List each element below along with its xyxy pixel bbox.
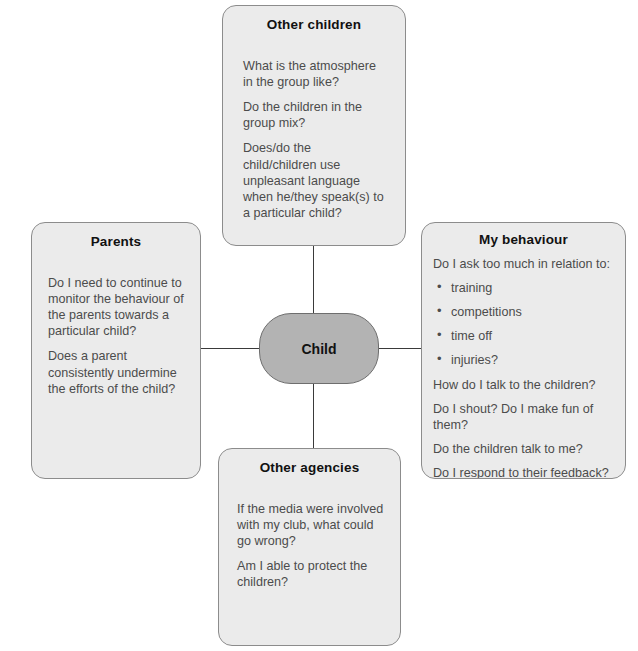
- node-my-behaviour-line-3: Do the children talk to me?: [433, 441, 615, 457]
- node-other-agencies-title: Other agencies: [219, 460, 400, 475]
- node-my-behaviour-line-1: How do I talk to the children?: [433, 377, 615, 393]
- node-parents-line-1: Do I need to continue to monitor the beh…: [48, 275, 186, 339]
- connector-bottom: [313, 384, 314, 448]
- node-my-behaviour-bullet-list: training competitions time off injuries?: [433, 280, 615, 368]
- node-other-children-body: What is the atmosphere in the group like…: [243, 58, 387, 221]
- node-other-children-line-1: What is the atmosphere in the group like…: [243, 58, 387, 90]
- mind-map-diagram: Other children What is the atmosphere in…: [0, 0, 638, 651]
- node-parents-title: Parents: [32, 234, 200, 249]
- node-other-children-title: Other children: [223, 17, 405, 32]
- node-my-behaviour-line-2: Do I shout? Do I make fun of them?: [433, 401, 615, 433]
- node-my-behaviour-line-4: Do I respond to their feedback?: [433, 465, 615, 479]
- node-parents[interactable]: Parents Do I need to continue to monitor…: [31, 222, 201, 479]
- list-item: time off: [433, 328, 615, 344]
- node-child-label: Child: [302, 341, 337, 357]
- list-item: injuries?: [433, 352, 615, 368]
- node-other-agencies[interactable]: Other agencies If the media were involve…: [218, 448, 401, 646]
- node-my-behaviour[interactable]: My behaviour Do I ask too much in relati…: [421, 222, 626, 479]
- node-other-children[interactable]: Other children What is the atmosphere in…: [222, 5, 406, 246]
- connector-left: [201, 348, 259, 349]
- list-item: competitions: [433, 304, 615, 320]
- node-my-behaviour-body: Do I ask too much in relation to: traini…: [433, 256, 615, 479]
- node-my-behaviour-title: My behaviour: [422, 232, 625, 247]
- node-child-center[interactable]: Child: [259, 313, 379, 384]
- node-parents-line-2: Does a parent consistently undermine the…: [48, 348, 186, 396]
- node-other-children-line-3: Does/do the child/children use unpleasan…: [243, 140, 387, 221]
- connector-top: [313, 246, 314, 313]
- list-item: training: [433, 280, 615, 296]
- node-other-children-line-2: Do the children in the group mix?: [243, 99, 387, 131]
- node-other-agencies-line-1: If the media were involved with my club,…: [237, 501, 384, 549]
- node-other-agencies-body: If the media were involved with my club,…: [237, 501, 384, 591]
- node-my-behaviour-intro: Do I ask too much in relation to:: [433, 256, 615, 272]
- connector-right: [379, 348, 421, 349]
- node-parents-body: Do I need to continue to monitor the beh…: [48, 275, 186, 397]
- node-other-agencies-line-2: Am I able to protect the children?: [237, 558, 384, 590]
